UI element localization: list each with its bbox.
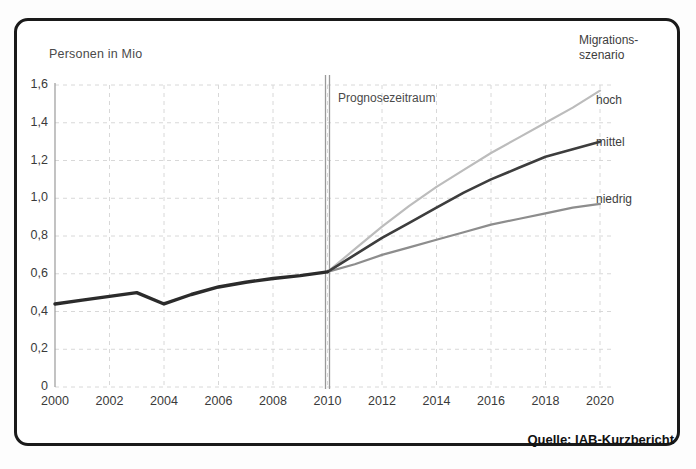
x-axis-tick-label: 2004	[142, 394, 186, 408]
series-line-ist-werte	[55, 272, 328, 304]
x-axis-tick-label: 2002	[88, 394, 132, 408]
x-axis-tick-label: 2012	[360, 394, 404, 408]
y-axis-tick-label: 0,2	[14, 341, 48, 355]
chart-figure: Personen in Mio Migrations- szenario Pro…	[0, 0, 696, 469]
x-axis-tick-label: 2000	[33, 394, 77, 408]
source-note: Quelle: IAB-Kurzbericht	[527, 432, 674, 447]
x-axis-tick-label: 2020	[578, 394, 622, 408]
x-axis-tick-label: 2018	[524, 394, 568, 408]
y-axis-tick-label: 0,8	[14, 228, 48, 242]
series-line-mittel	[328, 142, 601, 272]
legend-item-hoch: hoch	[596, 93, 622, 107]
series-line-hoch	[328, 91, 601, 272]
y-axis-tick-label: 1,2	[14, 153, 48, 167]
x-axis-tick-label: 2006	[197, 394, 241, 408]
legend-item-niedrig: niedrig	[596, 192, 632, 206]
y-axis-tick-label: 1,4	[14, 115, 48, 129]
y-axis-tick-label: 0	[14, 379, 48, 393]
y-axis-tick-label: 1,6	[14, 77, 48, 91]
x-axis-tick-label: 2014	[415, 394, 459, 408]
legend-item-mittel: mittel	[596, 135, 625, 149]
y-axis-tick-label: 1,0	[14, 190, 48, 204]
x-axis-tick-label: 2008	[251, 394, 295, 408]
x-axis-tick-label: 2010	[306, 394, 350, 408]
y-axis-tick-label: 0,4	[14, 304, 48, 318]
forecast-annotation: Prognosezeitraum	[338, 91, 435, 105]
y-axis-tick-label: 0,6	[14, 266, 48, 280]
x-axis-tick-label: 2016	[469, 394, 513, 408]
